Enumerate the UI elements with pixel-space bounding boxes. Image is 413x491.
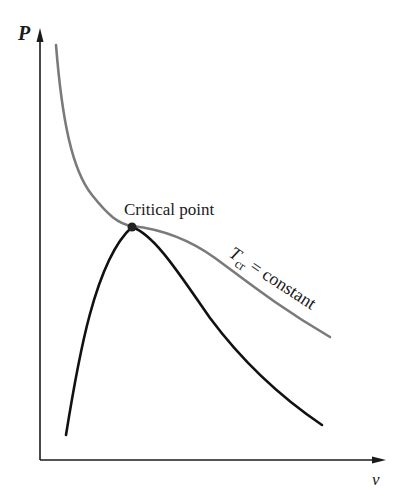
x-axis-label: v bbox=[372, 470, 380, 489]
y-axis-label: P bbox=[17, 22, 31, 44]
isotherm-label-rest: = constant bbox=[243, 254, 320, 314]
x-axis-arrow-icon bbox=[372, 457, 386, 464]
isotherm-label: Tcr = constant bbox=[224, 243, 320, 317]
y-axis-arrow-icon bbox=[37, 28, 44, 42]
axes bbox=[37, 28, 387, 464]
critical-point-marker bbox=[128, 223, 137, 232]
svg-text:Tcr = constant: Tcr = constant bbox=[224, 243, 320, 317]
pv-diagram: P v Critical point Tcr = constant bbox=[0, 0, 413, 491]
saturation-dome-curve bbox=[66, 227, 322, 435]
critical-point-label: Critical point bbox=[124, 200, 214, 219]
